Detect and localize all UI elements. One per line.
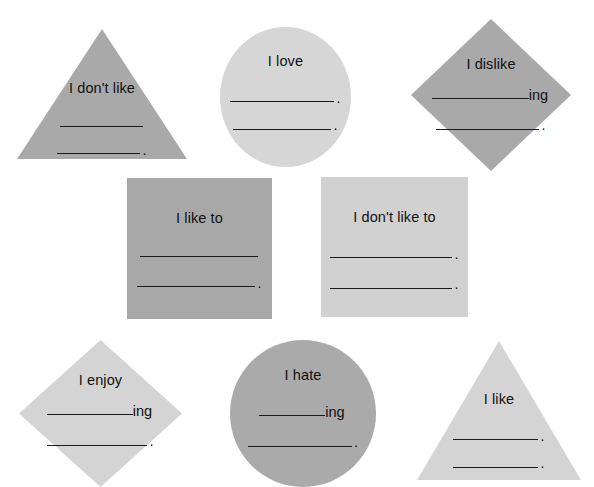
blank-line[interactable]: [330, 246, 452, 258]
answer-line-1[interactable]: ing: [47, 401, 154, 416]
answer-line-1[interactable]: .: [330, 244, 458, 259]
shape-card-dislike[interactable]: I dislike ing .: [411, 19, 571, 171]
card-content: I love . .: [220, 54, 351, 130]
blank-line[interactable]: [57, 142, 140, 154]
card-content: I like . .: [417, 392, 581, 468]
blank-line[interactable]: [259, 404, 325, 416]
prompt-text: I like to: [176, 211, 223, 226]
card-content: I hate ing .: [230, 368, 376, 447]
card-content: I don't like to . .: [321, 210, 468, 289]
blank-line[interactable]: [436, 118, 539, 130]
line-period: .: [452, 277, 458, 292]
card-content: I like to .: [127, 211, 272, 287]
line-period: .: [255, 276, 261, 291]
blank-line[interactable]: [47, 403, 133, 415]
prompt-text: I enjoy: [79, 373, 122, 388]
answer-line-2[interactable]: .: [47, 431, 153, 446]
blank-line[interactable]: [47, 434, 147, 446]
line-suffix: ing: [133, 404, 152, 419]
blank-line[interactable]: [432, 87, 529, 99]
prompt-text: I love: [268, 54, 303, 69]
blank-line[interactable]: [233, 118, 331, 130]
line-period: .: [352, 435, 358, 450]
answer-line-1[interactable]: ing: [259, 402, 346, 417]
prompt-text: I hate: [285, 368, 322, 383]
answer-line-1[interactable]: [60, 115, 145, 127]
shape-card-dont-like-to[interactable]: I don't like to . .: [321, 177, 468, 317]
answer-line-1[interactable]: ing: [432, 85, 550, 100]
line-period: .: [334, 91, 340, 106]
line-period: .: [538, 456, 544, 471]
answer-line-2[interactable]: .: [436, 115, 545, 130]
blank-line[interactable]: [60, 115, 143, 127]
prompt-text: I like: [484, 392, 514, 407]
shape-card-enjoy[interactable]: I enjoy ing .: [19, 340, 182, 487]
prompt-text: I don't like: [69, 81, 135, 96]
line-period: .: [539, 118, 545, 133]
line-period: .: [452, 247, 458, 262]
prompt-text: I dislike: [466, 57, 515, 72]
blank-line[interactable]: [453, 456, 538, 468]
blank-line[interactable]: [140, 245, 258, 257]
shape-card-love[interactable]: I love . .: [220, 27, 351, 167]
shape-card-dont-like[interactable]: I don't like .: [17, 29, 187, 159]
shape-card-like-to[interactable]: I like to .: [127, 178, 272, 319]
card-content: I don't like .: [17, 81, 187, 154]
answer-line-2[interactable]: .: [57, 140, 146, 155]
card-content: I enjoy ing .: [19, 373, 182, 446]
answer-line-2[interactable]: .: [137, 273, 261, 288]
line-period: .: [147, 434, 153, 449]
blank-line[interactable]: [453, 428, 538, 440]
line-suffix: ing: [529, 88, 548, 103]
card-content: I dislike ing .: [411, 57, 571, 130]
blank-line[interactable]: [137, 275, 255, 287]
answer-line-1[interactable]: .: [230, 88, 340, 103]
blank-line[interactable]: [330, 277, 452, 289]
shape-card-like[interactable]: I like . .: [417, 341, 581, 480]
answer-line-2[interactable]: .: [330, 274, 458, 289]
line-period: .: [538, 429, 544, 444]
line-suffix: ing: [325, 405, 344, 420]
worksheet-canvas: I don't like . I love .: [0, 0, 594, 487]
answer-line-2[interactable]: .: [453, 453, 544, 468]
answer-line-2[interactable]: .: [248, 432, 358, 447]
blank-line[interactable]: [248, 435, 352, 447]
shape-card-hate[interactable]: I hate ing .: [230, 340, 376, 487]
prompt-text: I don't like to: [353, 210, 435, 225]
answer-line-1[interactable]: [140, 245, 260, 257]
answer-line-2[interactable]: .: [233, 115, 337, 130]
blank-line[interactable]: [230, 90, 334, 102]
line-period: .: [140, 143, 146, 158]
answer-line-1[interactable]: .: [453, 426, 544, 441]
line-period: .: [331, 118, 337, 133]
